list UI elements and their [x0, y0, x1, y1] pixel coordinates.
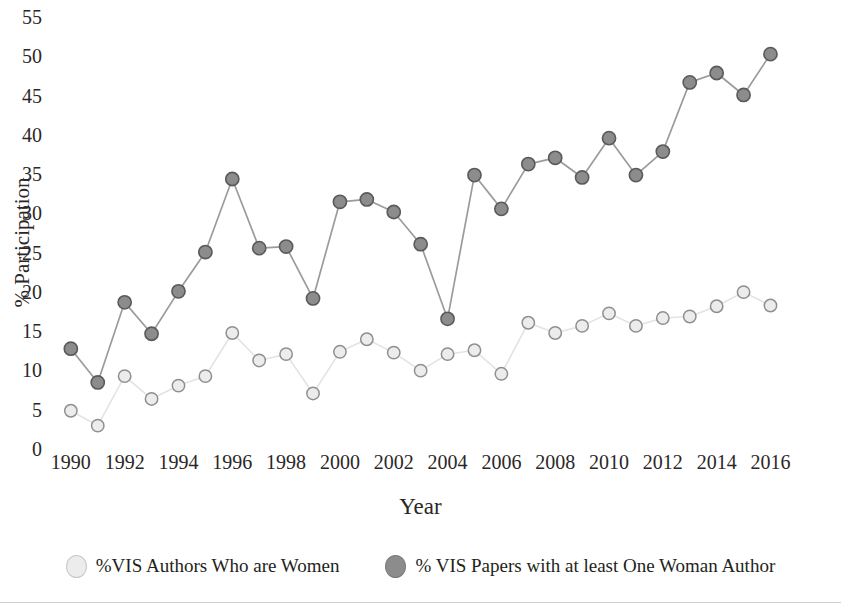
y-tick-label: 5: [32, 400, 42, 420]
x-tick-label: 2016: [750, 452, 790, 472]
data-point[interactable]: [387, 205, 400, 218]
data-point[interactable]: [414, 238, 427, 251]
x-tick-label: 1994: [158, 452, 198, 472]
x-tick-label: 1992: [105, 452, 145, 472]
data-point[interactable]: [360, 193, 373, 206]
x-axis-tick-labels: 1990199219941996199820002002200420062008…: [0, 452, 841, 482]
data-point[interactable]: [603, 307, 615, 319]
data-point[interactable]: [118, 370, 130, 382]
data-point[interactable]: [414, 364, 426, 376]
data-point[interactable]: [495, 202, 508, 215]
data-point[interactable]: [657, 312, 669, 324]
data-point[interactable]: [280, 348, 292, 360]
data-point[interactable]: [172, 285, 185, 298]
x-tick-label: 2014: [697, 452, 737, 472]
series-authors: [65, 286, 777, 432]
x-tick-label: 2004: [428, 452, 468, 472]
data-point[interactable]: [737, 286, 749, 298]
chart-legend: %VIS Authors Who are Women% VIS Papers w…: [0, 548, 841, 584]
data-point[interactable]: [145, 393, 157, 405]
x-tick-label: 1998: [266, 452, 306, 472]
y-axis-title: % Participation: [10, 143, 35, 343]
data-point[interactable]: [684, 310, 696, 322]
legend-item[interactable]: %VIS Authors Who are Women: [66, 555, 340, 578]
x-tick-label: 2008: [535, 452, 575, 472]
data-point[interactable]: [630, 320, 642, 332]
series-line: [71, 54, 771, 382]
x-tick-label: 2012: [643, 452, 683, 472]
data-point[interactable]: [576, 171, 589, 184]
data-point[interactable]: [683, 76, 696, 89]
data-point[interactable]: [576, 320, 588, 332]
data-point[interactable]: [306, 292, 319, 305]
data-point[interactable]: [280, 240, 293, 253]
data-point[interactable]: [710, 300, 722, 312]
plot-area: [52, 18, 792, 450]
x-axis-title: Year: [0, 494, 841, 520]
data-point[interactable]: [226, 327, 238, 339]
x-tick-label: 1990: [51, 452, 91, 472]
data-point[interactable]: [253, 242, 266, 255]
data-point[interactable]: [441, 348, 453, 360]
data-point[interactable]: [92, 419, 104, 431]
legend-swatch-circle-icon: [385, 555, 406, 578]
data-point[interactable]: [145, 327, 158, 340]
data-point[interactable]: [361, 333, 373, 345]
data-point[interactable]: [65, 405, 77, 417]
data-point[interactable]: [199, 245, 212, 258]
x-tick-label: 2006: [481, 452, 521, 472]
legend-item[interactable]: % VIS Papers with at least One Woman Aut…: [385, 555, 775, 578]
page-edge-divider: [0, 602, 841, 606]
data-point[interactable]: [764, 299, 776, 311]
y-tick-label: 10: [22, 360, 42, 380]
data-point[interactable]: [468, 344, 480, 356]
data-point[interactable]: [764, 48, 777, 61]
data-point[interactable]: [710, 66, 723, 79]
data-point[interactable]: [307, 387, 319, 399]
y-tick-label: 45: [22, 86, 42, 106]
data-point[interactable]: [522, 317, 534, 329]
data-point[interactable]: [522, 157, 535, 170]
data-point[interactable]: [64, 342, 77, 355]
data-point[interactable]: [441, 312, 454, 325]
data-point[interactable]: [333, 195, 346, 208]
data-point[interactable]: [549, 327, 561, 339]
data-point[interactable]: [549, 151, 562, 164]
data-point[interactable]: [602, 132, 615, 145]
x-tick-label: 1996: [212, 452, 252, 472]
data-point[interactable]: [629, 168, 642, 181]
chart-figure: 0510152025303540455055 % Participation 1…: [0, 0, 841, 606]
data-point[interactable]: [253, 354, 265, 366]
y-tick-label: 50: [22, 46, 42, 66]
y-tick-label: 55: [22, 7, 42, 27]
data-point[interactable]: [226, 172, 239, 185]
data-point[interactable]: [468, 168, 481, 181]
x-tick-label: 2000: [320, 452, 360, 472]
legend-swatch-circle-icon: [66, 555, 87, 578]
x-tick-label: 2010: [589, 452, 629, 472]
data-point[interactable]: [388, 346, 400, 358]
data-point[interactable]: [334, 346, 346, 358]
x-tick-label: 2002: [374, 452, 414, 472]
series-canvas: [52, 18, 792, 450]
data-point[interactable]: [495, 368, 507, 380]
data-point[interactable]: [737, 88, 750, 101]
data-point[interactable]: [199, 370, 211, 382]
data-point[interactable]: [172, 379, 184, 391]
data-point[interactable]: [91, 376, 104, 389]
data-point[interactable]: [656, 145, 669, 158]
series-papers: [64, 48, 777, 390]
legend-label: %VIS Authors Who are Women: [96, 555, 340, 577]
chart-title: [0, 0, 841, 6]
data-point[interactable]: [118, 296, 131, 309]
legend-label: % VIS Papers with at least One Woman Aut…: [415, 555, 775, 577]
